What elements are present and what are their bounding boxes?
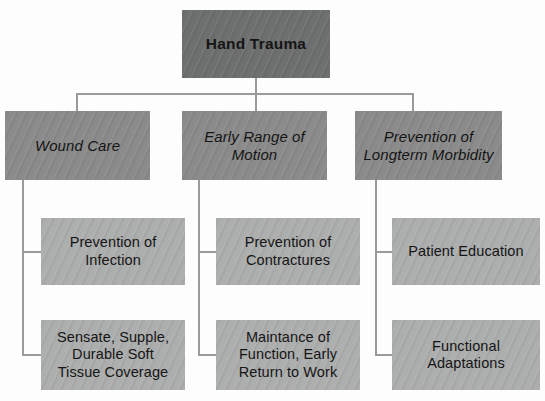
node-branch-1-label: Wound Care	[31, 137, 124, 155]
node-branch-prevention-of-longterm-morbidity[interactable]: Prevention of Longterm Morbidity	[355, 111, 502, 180]
connector-branch-1-to-child-2	[22, 354, 42, 356]
node-leaf-prevention-of-contractures[interactable]: Prevention of Contractures	[216, 218, 360, 285]
connector-root-bus	[76, 93, 414, 95]
node-leaf-3-1-label: Patient Education	[404, 243, 527, 260]
diagram-canvas: Hand Trauma Wound Care Early Range of Mo…	[0, 0, 545, 401]
node-leaf-sensate-supple-durable-soft-tissue-coverage[interactable]: Sensate, Supple, Durable Soft Tissue Cov…	[41, 320, 185, 390]
node-leaf-1-1-label: Prevention of Infection	[66, 234, 161, 268]
connector-branch-3-to-child-1	[375, 251, 393, 253]
connector-bus-to-branch-3	[412, 93, 414, 112]
connector-bus-to-branch-1	[76, 93, 78, 112]
node-leaf-2-2-label: Maintance of Function, Early Return to W…	[235, 329, 342, 380]
node-branch-early-range-of-motion[interactable]: Early Range of Motion	[182, 111, 327, 180]
node-leaf-prevention-of-infection[interactable]: Prevention of Infection	[41, 218, 185, 285]
connector-branch-2-to-child-1	[198, 251, 217, 253]
connector-bus-to-branch-2	[255, 93, 257, 112]
connector-root-stem	[255, 78, 257, 94]
node-root-label: Hand Trauma	[202, 35, 310, 53]
node-leaf-1-2-label: Sensate, Supple, Durable Soft Tissue Cov…	[53, 329, 173, 380]
node-branch-2-label: Early Range of Motion	[200, 128, 309, 163]
connector-branch-2-spine	[198, 180, 200, 355]
connector-branch-1-to-child-1	[22, 251, 42, 253]
node-branch-3-label: Prevention of Longterm Morbidity	[359, 128, 497, 163]
connector-branch-1-spine	[22, 180, 24, 355]
node-leaf-2-1-label: Prevention of Contractures	[241, 234, 336, 268]
connector-branch-3-spine	[375, 180, 377, 355]
node-leaf-functional-adaptations[interactable]: Functional Adaptations	[392, 320, 540, 390]
node-leaf-patient-education[interactable]: Patient Education	[392, 218, 540, 285]
connector-branch-2-to-child-2	[198, 354, 217, 356]
connector-branch-3-to-child-2	[375, 354, 393, 356]
node-branch-wound-care[interactable]: Wound Care	[5, 111, 150, 180]
node-root-hand-trauma[interactable]: Hand Trauma	[182, 10, 330, 78]
node-leaf-maintance-of-function-early-return-to-work[interactable]: Maintance of Function, Early Return to W…	[216, 320, 360, 390]
node-leaf-3-2-label: Functional Adaptations	[423, 338, 509, 372]
